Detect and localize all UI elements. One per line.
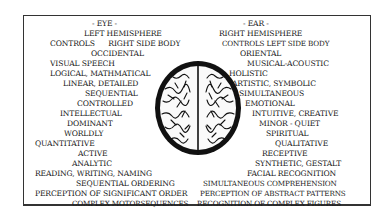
right-trait: PERCEPTION OF ABSTRACT PATTERNS [200, 189, 346, 198]
left-trait: COMPLEX MOTORSEQUENCES [72, 199, 188, 208]
right-trait: MINOR - QUIET [259, 119, 320, 128]
left-trait: WORLDLY [64, 129, 103, 138]
right-trait: SPIRITUAL [266, 129, 308, 138]
left-trait: ANALYTIC [72, 159, 112, 168]
right-trait: SYNTHETIC, GESTALT [255, 159, 341, 168]
left-trait: ACTIVE [78, 149, 108, 158]
right-trait: SIMULTANEOUS COMPREHENSION [203, 179, 337, 188]
right-trait: MUSICAL-ACOUSTIC [247, 59, 329, 68]
left-trait: READING, WRITING, NAMING [35, 169, 152, 178]
right-trait: RECOGNITION OF COMPLEX FIGURES [197, 199, 341, 208]
right-trait: QUALITATIVE [275, 139, 328, 148]
left-trait: PERCEPTION OF SIGNIFICANT ORDER [35, 189, 187, 198]
left-trait: SEQUENTIAL [85, 89, 138, 98]
right-trait: ARTISTIC, SYMBOLIC [232, 79, 316, 88]
right-trait: FACIAL RECOGNITION [247, 169, 336, 178]
left-trait: INTELLECTUAL [60, 109, 122, 118]
left-trait: VISUAL SPEECH [50, 59, 115, 68]
right-trait: HOLISTIC [229, 69, 268, 78]
ear-heading: - EAR - [243, 19, 269, 28]
right-trait: CONTROLS LEFT SIDE BODY [222, 39, 329, 48]
left-trait: QUANTITATIVE [35, 139, 95, 148]
left-trait: LOGICAL, MATHMATICAL [50, 69, 150, 78]
right-trait: INTUITIVE, CREATIVE [252, 109, 338, 118]
right-trait: RECEPTIVE [262, 149, 307, 158]
left-trait: LEFT HEMISPHERE [84, 29, 162, 38]
left-trait: DOMINANT [67, 119, 113, 128]
right-trait: ORIENTAL [240, 49, 281, 58]
eye-heading: - EYE - [92, 19, 117, 28]
left-trait: LINEAR, DETAILED [63, 79, 138, 88]
left-trait: CONTROLS RIGHT SIDE BODY [50, 39, 180, 48]
left-trait: SEQUENTIAL ORDERING [76, 179, 175, 188]
left-trait: OCCIDENTAL [91, 49, 144, 58]
right-trait: RIGHT HEMISPHERE [219, 29, 302, 38]
left-trait: CONTROLLED [77, 99, 133, 108]
right-trait: SIMULTANEOUS [239, 89, 304, 98]
right-trait: EMOTIONAL [245, 99, 295, 108]
